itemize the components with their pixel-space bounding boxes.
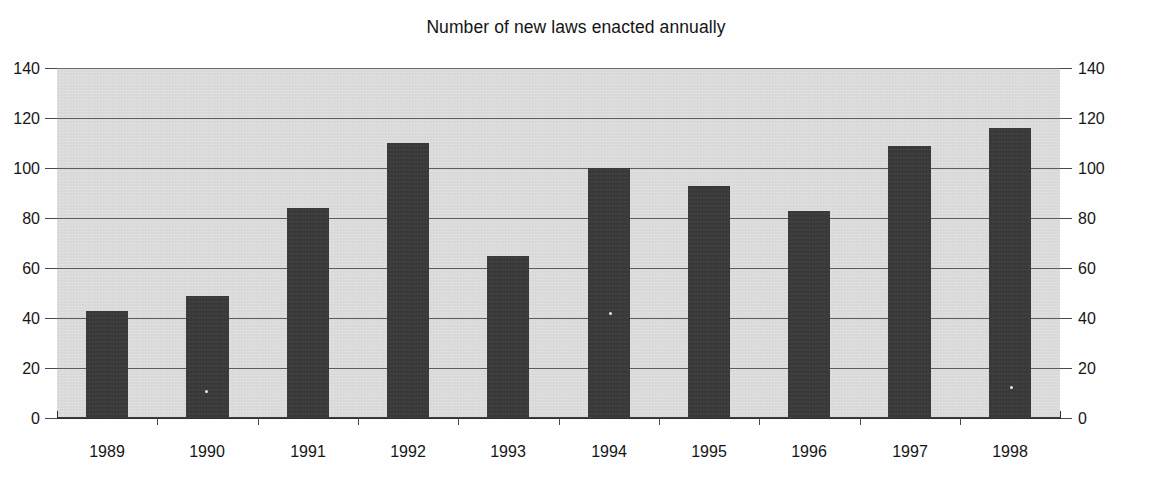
ytick-right-140 bbox=[1060, 68, 1072, 69]
xtick-6 bbox=[659, 418, 660, 425]
xtick-4 bbox=[458, 418, 459, 425]
gridline-120 bbox=[57, 118, 1060, 119]
xlabel-1998: 1998 bbox=[992, 443, 1028, 461]
ylabel-left-20: 20 bbox=[0, 360, 40, 378]
ylabel-right-100: 100 bbox=[1078, 160, 1150, 178]
x-axis-cap-right bbox=[1060, 411, 1061, 419]
ytick-left-80 bbox=[45, 218, 57, 219]
ylabel-left-100: 100 bbox=[0, 160, 40, 178]
bar-1992[interactable] bbox=[387, 143, 429, 418]
ylabel-right-80: 80 bbox=[1078, 210, 1150, 228]
xlabel-1995: 1995 bbox=[691, 443, 727, 461]
xlabel-1989: 1989 bbox=[89, 443, 125, 461]
bar-1989[interactable] bbox=[86, 311, 128, 419]
ytick-right-80 bbox=[1060, 218, 1072, 219]
bar-1998[interactable] bbox=[989, 128, 1031, 418]
ytick-right-120 bbox=[1060, 118, 1072, 119]
ytick-left-140 bbox=[45, 68, 57, 69]
ytick-right-20 bbox=[1060, 368, 1072, 369]
bar-1997[interactable] bbox=[888, 146, 930, 419]
xtick-5 bbox=[559, 418, 560, 425]
ytick-right-40 bbox=[1060, 318, 1072, 319]
ylabel-right-60: 60 bbox=[1078, 260, 1150, 278]
bar-1993[interactable] bbox=[487, 256, 529, 419]
bar-1990[interactable] bbox=[186, 296, 228, 419]
bar-1995[interactable] bbox=[688, 186, 730, 419]
xlabel-1990: 1990 bbox=[189, 443, 225, 461]
ylabel-right-20: 20 bbox=[1078, 360, 1150, 378]
ylabel-left-0: 0 bbox=[0, 410, 40, 428]
ylabel-right-0: 0 bbox=[1078, 410, 1150, 428]
xlabel-1994: 1994 bbox=[591, 443, 627, 461]
ylabel-left-40: 40 bbox=[0, 310, 40, 328]
chart-figure: Number of new laws enacted annually 140 … bbox=[0, 0, 1152, 493]
xtick-8 bbox=[860, 418, 861, 425]
xtick-3 bbox=[358, 418, 359, 425]
bar-1991[interactable] bbox=[287, 208, 329, 418]
ytick-left-40 bbox=[45, 318, 57, 319]
ylabel-left-140: 140 bbox=[0, 60, 40, 78]
bar-1996[interactable] bbox=[788, 211, 830, 419]
ytick-left-120 bbox=[45, 118, 57, 119]
ylabel-left-80: 80 bbox=[0, 210, 40, 228]
ylabel-right-120: 120 bbox=[1078, 110, 1150, 128]
xlabel-1991: 1991 bbox=[290, 443, 326, 461]
ytick-left-0 bbox=[45, 418, 57, 419]
xtick-9 bbox=[960, 418, 961, 425]
ytick-right-60 bbox=[1060, 268, 1072, 269]
ylabel-right-40: 40 bbox=[1078, 310, 1150, 328]
ytick-left-100 bbox=[45, 168, 57, 169]
x-axis-cap-left bbox=[57, 411, 58, 419]
ylabel-left-120: 120 bbox=[0, 110, 40, 128]
xlabel-1993: 1993 bbox=[490, 443, 526, 461]
xtick-2 bbox=[258, 418, 259, 425]
ytick-right-0 bbox=[1060, 418, 1072, 419]
xlabel-1997: 1997 bbox=[892, 443, 928, 461]
chart-title: Number of new laws enacted annually bbox=[0, 17, 1152, 38]
ytick-right-100 bbox=[1060, 168, 1072, 169]
ylabel-left-60: 60 bbox=[0, 260, 40, 278]
xlabel-1996: 1996 bbox=[791, 443, 827, 461]
plot-area bbox=[57, 68, 1060, 418]
ytick-left-20 bbox=[45, 368, 57, 369]
gridline-140 bbox=[57, 68, 1060, 69]
ylabel-right-140: 140 bbox=[1078, 60, 1150, 78]
bar-1994[interactable] bbox=[588, 168, 630, 418]
ytick-left-60 bbox=[45, 268, 57, 269]
xtick-7 bbox=[759, 418, 760, 425]
xlabel-1992: 1992 bbox=[390, 443, 426, 461]
xtick-1 bbox=[157, 418, 158, 425]
